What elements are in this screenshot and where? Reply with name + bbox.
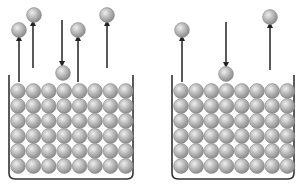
liquid-particle [57,129,72,144]
liquid-particle [174,99,189,114]
liquid-particle [88,99,103,114]
liquid-particle [88,114,103,129]
liquid-particle [41,159,56,174]
liquid-particle [234,144,249,159]
liquid-particle [219,84,234,99]
liquid-particle [72,129,87,144]
liquid-particle [57,159,72,174]
liquid-particle [174,159,189,174]
liquid-particle [189,84,204,99]
liquid-particle [265,144,280,159]
liquid-particle [72,144,87,159]
liquid-particle [11,129,26,144]
liquid-particle [103,99,118,114]
liquid-particle [72,99,87,114]
liquid-particle [118,144,133,159]
liquid-particle [204,99,219,114]
liquid-particle [189,159,204,174]
liquid-particle [26,99,41,114]
liquid-particle [204,159,219,174]
liquid-particle [26,114,41,129]
liquid-particle [250,114,265,129]
vapor-particle [100,8,115,23]
liquid-particle [118,129,133,144]
vapor-particle [71,23,86,38]
liquid-particle [265,99,280,114]
liquid-particle [204,144,219,159]
liquid-particle [189,144,204,159]
liquid-particle [41,84,56,99]
liquid-particle [11,159,26,174]
liquid-particles-layer [11,84,295,174]
liquid-particle [72,159,87,174]
liquid-particle [250,144,265,159]
liquid-particle [234,99,249,114]
liquid-particle [88,144,103,159]
liquid-particle [219,129,234,144]
liquid-particle [72,114,87,129]
liquid-particle [103,159,118,174]
liquid-particle [72,84,87,99]
liquid-particle [219,99,234,114]
liquid-particle [265,84,280,99]
liquid-particle [41,144,56,159]
liquid-particle [250,99,265,114]
liquid-particle [280,84,295,99]
liquid-particle [280,99,295,114]
liquid-particle [189,99,204,114]
liquid-particle [204,84,219,99]
liquid-particle [41,129,56,144]
liquid-particle [88,159,103,174]
vapor-particle [12,23,27,38]
vapor-particles-layer [12,8,278,82]
liquid-particle [88,84,103,99]
liquid-particle [103,114,118,129]
liquid-particle [103,84,118,99]
liquid-particle [11,99,26,114]
liquid-particle [174,129,189,144]
liquid-particle [204,114,219,129]
liquid-particle [118,159,133,174]
liquid-particle [103,144,118,159]
liquid-particle [26,129,41,144]
vapor-particle [27,8,42,23]
liquid-particle [41,99,56,114]
liquid-particle [11,144,26,159]
liquid-particle [57,99,72,114]
liquid-particle [189,114,204,129]
liquid-particle [41,114,56,129]
liquid-particle [280,144,295,159]
diagram-canvas [0,0,299,189]
liquid-particle [118,99,133,114]
liquid-particle [250,84,265,99]
liquid-particle [174,144,189,159]
liquid-particle [204,129,219,144]
liquid-particle [234,114,249,129]
liquid-particle [189,129,204,144]
vapor-particle [56,66,71,81]
liquid-particle [280,114,295,129]
liquid-particle [265,159,280,174]
liquid-particle [234,129,249,144]
liquid-particle [11,84,26,99]
liquid-particle [234,84,249,99]
liquid-particle [280,129,295,144]
liquid-particle [88,129,103,144]
liquid-particle [219,144,234,159]
liquid-particle [118,84,133,99]
liquid-particle [174,114,189,129]
liquid-particle [11,114,26,129]
vapor-particle [219,67,234,82]
liquid-particle [174,84,189,99]
liquid-particle [118,114,133,129]
liquid-particle [265,129,280,144]
liquid-particle [26,144,41,159]
liquid-particle [57,144,72,159]
liquid-particle [219,114,234,129]
liquid-particle [26,159,41,174]
liquid-particle [234,159,249,174]
vapor-particle [175,23,190,38]
vapor-particle [263,10,278,25]
liquid-particle [57,84,72,99]
evaporation-diagram [0,0,299,189]
